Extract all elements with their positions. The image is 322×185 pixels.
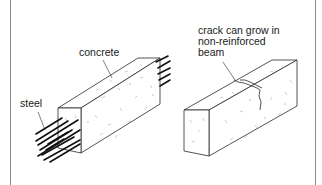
steel-label: steel bbox=[20, 98, 42, 109]
crack-label: crack can grow in non-reinforced beam bbox=[198, 25, 280, 58]
non-reinforced-beam bbox=[184, 60, 297, 156]
diagram-frame: concrete steel crack can grow in non-rei… bbox=[0, 0, 322, 185]
crack-leader-line bbox=[223, 62, 235, 80]
concrete-label: concrete bbox=[79, 47, 119, 58]
steel-leader-line bbox=[38, 112, 45, 130]
concrete-leader-line bbox=[103, 60, 112, 78]
non-reinforced-beam-front-face bbox=[184, 110, 209, 156]
crack-label-line-3: beam bbox=[198, 47, 280, 58]
